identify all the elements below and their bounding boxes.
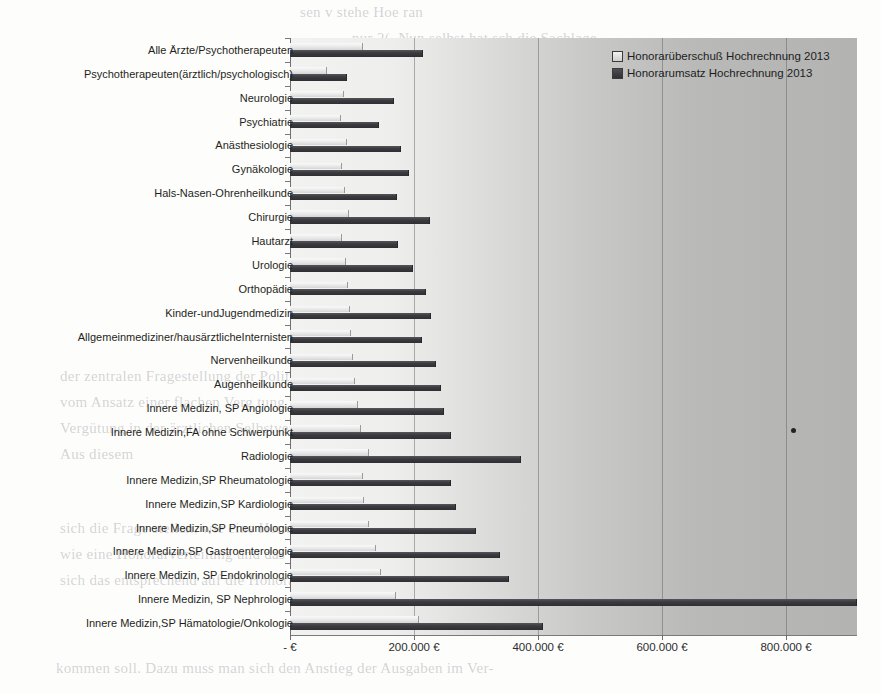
legend-swatch-icon bbox=[612, 68, 623, 79]
category-tick-mark bbox=[285, 396, 290, 397]
bar-honorarumsatz bbox=[290, 289, 426, 295]
legend-item: Honorarumsatz Hochrechnung 2013 bbox=[612, 67, 830, 79]
category-label: Kinder-undJugendmedizin bbox=[165, 307, 293, 319]
bar-honorarumsatz bbox=[290, 265, 413, 271]
category-tick-mark bbox=[285, 539, 290, 540]
category-label: Radiologie bbox=[241, 450, 293, 462]
category-tick-mark bbox=[285, 157, 290, 158]
bar-honoraruberschuss bbox=[290, 425, 361, 431]
value-tick-label: - € bbox=[283, 641, 296, 653]
category-tick-mark bbox=[285, 134, 290, 135]
category-tick-mark bbox=[285, 301, 290, 302]
value-tick-mark bbox=[414, 635, 415, 640]
legend-item: Honorarüberschuß Hochrechnung 2013 bbox=[612, 50, 830, 62]
bar-honorarumsatz bbox=[290, 217, 430, 223]
category-label: Innere Medizin,FA ohne Schwerpunkt bbox=[111, 426, 293, 438]
category-label: Innere Medizin,SP Gastroenterologie bbox=[113, 545, 293, 557]
category-label: Hals-Nasen-Ohrenheilkunde bbox=[154, 187, 293, 199]
bar-honoraruberschuss bbox=[290, 258, 346, 264]
category-axis-line bbox=[290, 635, 857, 636]
bar-honoraruberschuss bbox=[290, 545, 376, 551]
page-root: sen v stehe Hoe rannur 2(. Nun selbst ha… bbox=[0, 0, 881, 693]
bar-honoraruberschuss bbox=[290, 449, 369, 455]
bar-honorarumsatz bbox=[290, 504, 456, 510]
bar-honoraruberschuss bbox=[290, 569, 381, 575]
category-label: Chirurgie bbox=[248, 211, 293, 223]
bar-honoraruberschuss bbox=[290, 234, 342, 240]
bar-honoraruberschuss bbox=[290, 401, 358, 407]
bar-honoraruberschuss bbox=[290, 115, 341, 121]
category-label: Nervenheilkunde bbox=[210, 354, 293, 366]
bar-honorarumsatz bbox=[290, 337, 422, 343]
category-tick-mark bbox=[285, 110, 290, 111]
bar-honoraruberschuss bbox=[290, 282, 348, 288]
bar-honoraruberschuss bbox=[290, 187, 345, 193]
bar-honorarumsatz bbox=[290, 194, 397, 200]
bar-honorarumsatz bbox=[290, 170, 409, 176]
category-label: Innere Medizin,SP Hämatologie/Onkologie bbox=[86, 617, 293, 629]
bar-honorarumsatz bbox=[290, 576, 509, 582]
category-label: Innere Medizin, SP Endokrinologie bbox=[124, 569, 293, 581]
category-tick-mark bbox=[285, 348, 290, 349]
category-label: Psychiatrie bbox=[239, 116, 293, 128]
bar-honorarumsatz bbox=[290, 50, 423, 56]
category-tick-mark bbox=[285, 325, 290, 326]
chart-legend: Honorarüberschuß Hochrechnung 2013Honora… bbox=[612, 50, 830, 84]
category-label: Innere Medizin, SP Angiologie bbox=[146, 402, 293, 414]
category-tick-mark bbox=[285, 181, 290, 182]
category-tick-mark bbox=[285, 205, 290, 206]
category-tick-mark bbox=[285, 468, 290, 469]
category-label: Psychotherapeuten(ärztlich/psychologisch… bbox=[84, 68, 293, 80]
category-tick-mark bbox=[285, 86, 290, 87]
category-label: Innere Medizin,SP Pneumologie bbox=[136, 522, 293, 534]
category-label: Alle Ärzte/Psychotherapeuten bbox=[148, 44, 293, 56]
value-tick-label: 800.000 € bbox=[760, 641, 811, 653]
category-label: Innere Medizin, SP Nephrologie bbox=[138, 593, 293, 605]
bar-honoraruberschuss bbox=[290, 210, 349, 216]
bar-honoraruberschuss bbox=[290, 43, 363, 49]
category-tick-mark bbox=[285, 563, 290, 564]
category-label: Allgemeinmediziner/hausärztlicheInternis… bbox=[78, 331, 293, 343]
bar-honorarumsatz bbox=[290, 599, 857, 605]
category-tick-mark bbox=[285, 444, 290, 445]
category-label: Anästhesiologie bbox=[215, 139, 293, 151]
category-tick-mark bbox=[285, 420, 290, 421]
bar-honoraruberschuss bbox=[290, 139, 347, 145]
bar-honorarumsatz bbox=[290, 432, 451, 438]
legend-label: Honorarumsatz Hochrechnung 2013 bbox=[627, 67, 812, 79]
bar-honorarumsatz bbox=[290, 122, 379, 128]
gridline bbox=[786, 38, 787, 635]
value-tick-label: 400.000 € bbox=[512, 641, 563, 653]
bar-honoraruberschuss bbox=[290, 616, 419, 622]
category-label: Gynäkologie bbox=[232, 163, 293, 175]
category-tick-mark bbox=[285, 62, 290, 63]
category-label: Hautarzt bbox=[251, 235, 293, 247]
bar-honoraruberschuss bbox=[290, 330, 351, 336]
ink-dot-artifact bbox=[791, 428, 796, 433]
category-tick-mark bbox=[285, 611, 290, 612]
bar-honorarumsatz bbox=[290, 313, 431, 319]
bar-honorarumsatz bbox=[290, 408, 444, 414]
bar-honorarumsatz bbox=[290, 98, 394, 104]
category-label: Urologie bbox=[252, 259, 293, 271]
category-tick-mark bbox=[285, 277, 290, 278]
legend-swatch-icon bbox=[612, 51, 623, 62]
value-tick-mark bbox=[662, 635, 663, 640]
category-label: Innere Medizin,SP Rheumatologie bbox=[126, 474, 293, 486]
bar-honoraruberschuss bbox=[290, 473, 363, 479]
category-tick-mark bbox=[285, 587, 290, 588]
bar-honorarumsatz bbox=[290, 528, 476, 534]
bar-chart: Alle Ärzte/PsychotherapeutenPsychotherap… bbox=[0, 0, 881, 693]
bar-honoraruberschuss bbox=[290, 91, 344, 97]
bar-honoraruberschuss bbox=[290, 592, 396, 598]
value-tick-mark bbox=[290, 635, 291, 640]
bar-honoraruberschuss bbox=[290, 497, 364, 503]
bar-honorarumsatz bbox=[290, 552, 500, 558]
value-tick-label: 200.000 € bbox=[388, 641, 439, 653]
category-tick-mark bbox=[285, 38, 290, 39]
category-tick-mark bbox=[285, 492, 290, 493]
value-tick-mark bbox=[538, 635, 539, 640]
bar-honorarumsatz bbox=[290, 623, 543, 629]
bar-honoraruberschuss bbox=[290, 306, 350, 312]
category-label: Neurologie bbox=[240, 92, 293, 104]
